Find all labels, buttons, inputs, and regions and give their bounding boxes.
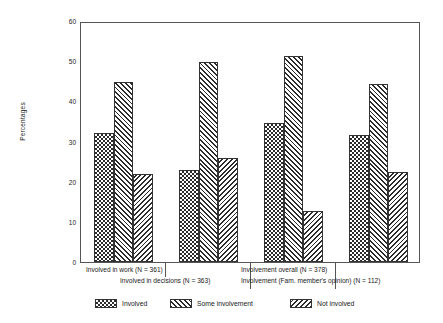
legend-swatch-icon	[290, 299, 312, 308]
bar	[264, 123, 284, 262]
bar-chart-figure: Percentages 0102030405060 Involved in wo…	[0, 0, 443, 323]
legend-item: Involved	[95, 296, 147, 310]
group-separator-tick	[165, 263, 166, 277]
bar	[114, 82, 134, 262]
y-tick-label: 60	[52, 18, 76, 25]
chart-legend: InvolvedSome involvementNot involved	[0, 296, 443, 314]
legend-item: Not involved	[290, 296, 354, 310]
x-category-label: Involved in decisions (N = 363)	[120, 277, 210, 284]
x-category-label: Involvement (Fam. member's opinion) (N =…	[241, 277, 380, 284]
legend-label: Involved	[122, 300, 147, 307]
y-tick-label: 0	[52, 259, 76, 266]
y-tick-label: 30	[52, 139, 76, 146]
bar	[133, 174, 153, 262]
legend-item: Some involvement	[170, 296, 253, 310]
y-tick-label: 10	[52, 219, 76, 226]
bar	[388, 172, 408, 262]
x-category-label: Involvement overall (N = 378)	[241, 266, 327, 273]
plot-area	[80, 22, 420, 263]
y-tick-label: 20	[52, 179, 76, 186]
legend-label: Some involvement	[197, 300, 253, 307]
group-separator-tick	[335, 263, 336, 289]
bar	[284, 56, 304, 262]
y-tick-label: 40	[52, 98, 76, 105]
y-axis-title: Percentages	[19, 72, 26, 172]
bar	[218, 158, 238, 262]
bar	[349, 135, 369, 262]
bar	[303, 211, 323, 262]
bar	[369, 84, 389, 262]
bar	[94, 133, 114, 262]
legend-label: Not involved	[317, 300, 354, 307]
legend-swatch-icon	[170, 299, 192, 308]
legend-swatch-icon	[95, 299, 117, 308]
bar	[179, 170, 199, 262]
x-category-label: Involved in work (N = 361)	[86, 266, 163, 273]
y-tick-label: 50	[52, 58, 76, 65]
bar	[199, 62, 219, 262]
